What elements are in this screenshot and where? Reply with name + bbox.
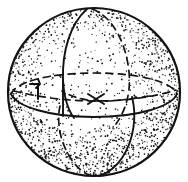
stipple-dot	[100, 162, 101, 163]
stipple-dot	[110, 155, 111, 156]
stipple-dot	[104, 144, 105, 145]
stipple-dot	[103, 160, 104, 161]
stipple-dot	[123, 140, 125, 142]
stipple-dot	[46, 119, 48, 121]
stipple-dot	[21, 125, 22, 126]
stipple-dot	[85, 164, 86, 165]
stipple-dot	[54, 22, 56, 24]
stipple-dot	[138, 145, 139, 146]
stipple-dot	[149, 136, 151, 138]
stipple-dot	[96, 168, 97, 169]
stipple-dot	[106, 83, 108, 85]
stipple-dot	[87, 70, 89, 72]
stipple-dot	[161, 117, 162, 118]
stipple-dot	[49, 140, 51, 142]
stipple-dot	[64, 42, 65, 43]
interior-chord-hidden	[62, 91, 150, 101]
stipple-dot	[35, 46, 36, 47]
stipple-dot	[42, 127, 43, 128]
stipple-dot	[125, 167, 127, 169]
stipple-dot	[116, 17, 118, 19]
stipple-dot	[167, 89, 168, 90]
stipple-dot	[127, 140, 129, 142]
stipple-dot	[80, 129, 81, 130]
stipple-dot	[24, 64, 25, 65]
stipple-dot	[125, 29, 126, 30]
stipple-dot	[159, 76, 161, 78]
stipple-dot	[162, 112, 164, 114]
stipple-dot	[168, 122, 170, 124]
stipple-dot	[132, 30, 133, 31]
stipple-dot	[40, 62, 42, 64]
stipple-dot	[158, 126, 159, 127]
stipple-dot	[138, 143, 140, 145]
stipple-dot	[73, 134, 74, 135]
stipple-dot	[30, 44, 31, 45]
stipple-dot	[40, 155, 42, 157]
stipple-dot	[160, 94, 161, 95]
stipple-dot	[101, 149, 103, 151]
stipple-dot	[52, 101, 53, 102]
stipple-dot	[82, 137, 84, 139]
stipple-dot	[57, 143, 58, 144]
stipple-dot	[48, 109, 50, 111]
stipple-dot	[143, 62, 145, 64]
stipple-dot	[138, 124, 139, 125]
stipple-dot	[139, 154, 140, 155]
stipple-dot	[84, 156, 86, 158]
stipple-dot	[100, 18, 101, 19]
stipple-dot	[90, 171, 91, 172]
stipple-dot	[143, 32, 145, 34]
stipple-dot	[45, 82, 47, 84]
stipple-dot	[135, 44, 137, 46]
stipple-dot	[28, 49, 30, 51]
stipple-dot	[35, 74, 37, 76]
stipple-dot	[34, 144, 36, 146]
stipple-dot	[44, 153, 46, 155]
stipple-dot	[36, 124, 37, 125]
stipple-dot	[141, 110, 143, 112]
stipple-dot	[108, 78, 109, 79]
stipple-dot	[130, 90, 131, 91]
stipple-dot	[104, 153, 105, 154]
stipple-dot	[107, 12, 109, 14]
stipple-dot	[30, 78, 32, 80]
stipple-dot	[100, 151, 101, 152]
stipple-dot	[156, 113, 158, 115]
stipple-dot	[20, 107, 22, 109]
stipple-dot	[164, 68, 165, 69]
stipple-dot	[36, 121, 38, 123]
stipple-dot	[126, 161, 128, 163]
stipple-dot	[157, 138, 159, 140]
stipple-dot	[134, 42, 135, 43]
stipple-dot	[35, 102, 36, 103]
stipple-dot	[42, 37, 43, 38]
stipple-dot	[22, 94, 23, 95]
stipple-dot	[34, 101, 35, 102]
stipple-dot	[128, 50, 130, 52]
stipple-dot	[127, 143, 128, 144]
stipple-dot	[130, 30, 132, 32]
stipple-dot	[77, 23, 79, 25]
stipple-dot	[49, 134, 50, 135]
stipple-dot	[134, 54, 136, 56]
stipple-dot	[28, 117, 29, 118]
stipple-dot	[25, 131, 27, 133]
stipple-dot	[63, 131, 64, 132]
stipple-dot	[89, 142, 91, 144]
stipple-dot	[119, 163, 120, 164]
stipple-dot	[68, 117, 70, 119]
stipple-dot	[47, 151, 48, 152]
stipple-dot	[131, 67, 132, 68]
stipple-dot	[156, 46, 157, 47]
stipple-dot	[57, 48, 58, 49]
stipple-dot	[107, 143, 109, 145]
stipple-dot	[81, 141, 82, 142]
stipple-dot	[161, 112, 162, 113]
stipple-dot	[17, 127, 18, 128]
stipple-dot	[101, 158, 102, 159]
stipple-dot	[55, 161, 56, 162]
stipple-dot	[16, 68, 17, 69]
stipple-dot	[157, 121, 158, 122]
stipple-dot	[120, 166, 122, 168]
